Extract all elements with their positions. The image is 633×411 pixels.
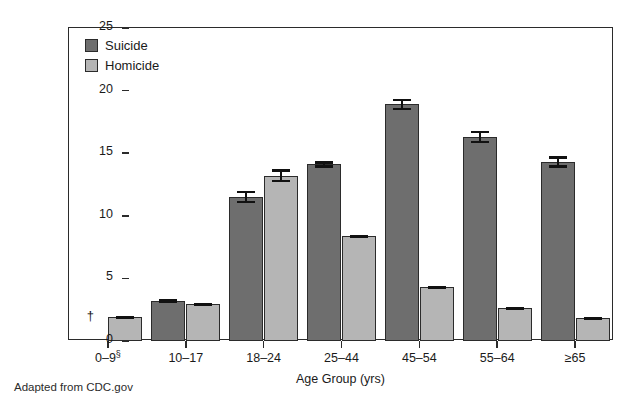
error-bar-cap-bottom	[237, 201, 255, 203]
bar-homicide-2	[264, 176, 298, 341]
x-tick-label-6: ≥65	[565, 351, 586, 365]
chart-figure: Rate per 100,000 Population Suicide Homi…	[0, 0, 633, 411]
bar-suicide-6	[541, 162, 575, 341]
y-tick-label: 0	[106, 332, 113, 346]
legend-label-homicide: Homicide	[105, 58, 159, 73]
error-bar-cap-top	[549, 156, 567, 158]
chart-legend: Suicide Homicide	[85, 37, 159, 77]
y-tick-mark	[122, 90, 129, 92]
y-tick-label: 15	[99, 144, 113, 158]
y-tick-mark	[122, 278, 129, 280]
y-tick-mark	[122, 340, 129, 342]
error-bar-cap-top	[237, 191, 255, 193]
bar-homicide-1	[186, 304, 220, 341]
x-tick-label-5: 55–64	[480, 351, 515, 365]
y-tick-label: 25	[99, 19, 113, 33]
error-bar-cap-top	[315, 161, 333, 163]
error-bar-cap-bottom	[350, 236, 368, 238]
error-bar-homicide-3	[350, 235, 368, 239]
y-tick-label: 5	[106, 269, 113, 283]
error-bar-cap-bottom	[315, 165, 333, 167]
error-bar-cap-bottom	[584, 318, 602, 320]
error-bar-cap-bottom	[506, 308, 524, 310]
error-bar-cap-top	[272, 169, 290, 171]
error-bar-cap-bottom	[471, 141, 489, 143]
plot-area: Suicide Homicide † 0–9§10–1718–2425–4445…	[68, 27, 613, 340]
error-bar-homicide-6	[584, 317, 602, 320]
error-bar-suicide-1	[159, 299, 177, 303]
y-tick-mark	[122, 27, 129, 29]
legend-item-homicide: Homicide	[85, 57, 159, 74]
bar-suicide-3	[307, 164, 341, 341]
bar-homicide-3	[342, 236, 376, 341]
bar-suicide-5	[463, 137, 497, 341]
error-bar-suicide-2	[237, 191, 255, 204]
legend-item-suicide: Suicide	[85, 37, 159, 54]
error-bar-cap-bottom	[272, 180, 290, 182]
y-tick-mark	[122, 215, 129, 217]
x-tick-mark	[341, 341, 343, 348]
error-bar-homicide-2	[272, 169, 290, 182]
error-bar-cap-bottom	[194, 303, 212, 305]
error-bar-homicide-5	[506, 307, 524, 310]
error-bar-homicide-4	[428, 286, 446, 289]
error-bar-cap-bottom	[428, 286, 446, 288]
error-bar-suicide-4	[393, 99, 411, 110]
x-tick-label-3: 25–44	[324, 351, 359, 365]
bar-homicide-0	[108, 317, 142, 341]
x-tick-mark	[419, 341, 421, 348]
error-bar-cap-top	[471, 131, 489, 133]
suppressed-data-marker: †	[87, 309, 94, 322]
y-tick-mark	[122, 152, 129, 154]
y-tick-label: 20	[99, 82, 113, 96]
x-tick-label-1: 10–17	[168, 351, 203, 365]
x-tick-mark	[185, 341, 187, 348]
error-bar-cap-top	[393, 99, 411, 101]
y-tick-label: 10	[99, 207, 113, 221]
bar-suicide-4	[385, 104, 419, 341]
x-tick-label-4: 45–54	[402, 351, 437, 365]
legend-swatch-homicide	[85, 59, 98, 72]
error-bar-suicide-3	[315, 161, 333, 167]
x-tick-label-2: 18–24	[246, 351, 281, 365]
legend-swatch-suicide	[85, 39, 98, 52]
legend-label-suicide: Suicide	[105, 38, 148, 53]
error-bar-cap-bottom	[549, 165, 567, 167]
x-tick-mark	[263, 341, 265, 348]
bar-suicide-2	[229, 197, 263, 341]
error-bar-cap-bottom	[393, 108, 411, 110]
error-bar-cap-bottom	[116, 316, 134, 318]
bar-homicide-6	[576, 318, 610, 341]
error-bar-suicide-5	[471, 131, 489, 144]
bar-suicide-1	[151, 301, 185, 341]
x-tick-mark	[496, 341, 498, 348]
bar-homicide-5	[498, 308, 532, 341]
error-bar-cap-bottom	[159, 300, 177, 302]
error-bar-homicide-0	[116, 316, 134, 319]
x-tick-label-0: 0–9§	[95, 351, 121, 365]
error-bar-homicide-1	[194, 303, 212, 306]
x-tick-mark	[574, 341, 576, 348]
figure-caption: Adapted from CDC.gov	[14, 381, 133, 393]
bar-homicide-4	[420, 287, 454, 341]
error-bar-suicide-6	[549, 156, 567, 167]
x-axis-title: Age Group (yrs)	[68, 372, 613, 386]
